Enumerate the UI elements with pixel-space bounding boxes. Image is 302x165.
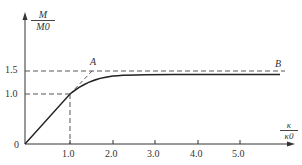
y-axis-arrow-icon [23, 12, 28, 20]
y-label-numerator: M [31, 10, 55, 21]
x-label-numerator: κ [280, 121, 298, 131]
x-axis-arrow-icon [287, 142, 295, 147]
origin-label: 0 [14, 140, 19, 150]
x-tick-4-0: 4.0 [190, 149, 203, 159]
y-tick-1-5: 1.5 [5, 65, 18, 75]
point-b-label: B [275, 59, 281, 69]
x-tick-3-0: 3.0 [147, 149, 160, 159]
x-axis-label: κ κ0 [280, 121, 298, 141]
x-tick-2-0: 2.0 [105, 149, 118, 159]
point-a-label: A [90, 57, 96, 67]
y-axis-label: M M0 [31, 10, 55, 32]
y-label-denominator: M0 [31, 21, 55, 32]
x-tick-5-0: 5.0 [232, 149, 245, 159]
x-ticks [70, 140, 240, 144]
x-tick-1-0: 1.0 [62, 149, 75, 159]
x-label-denominator: κ0 [280, 131, 298, 141]
y-tick-1-0: 1.0 [5, 89, 18, 99]
main-curve [25, 74, 280, 144]
